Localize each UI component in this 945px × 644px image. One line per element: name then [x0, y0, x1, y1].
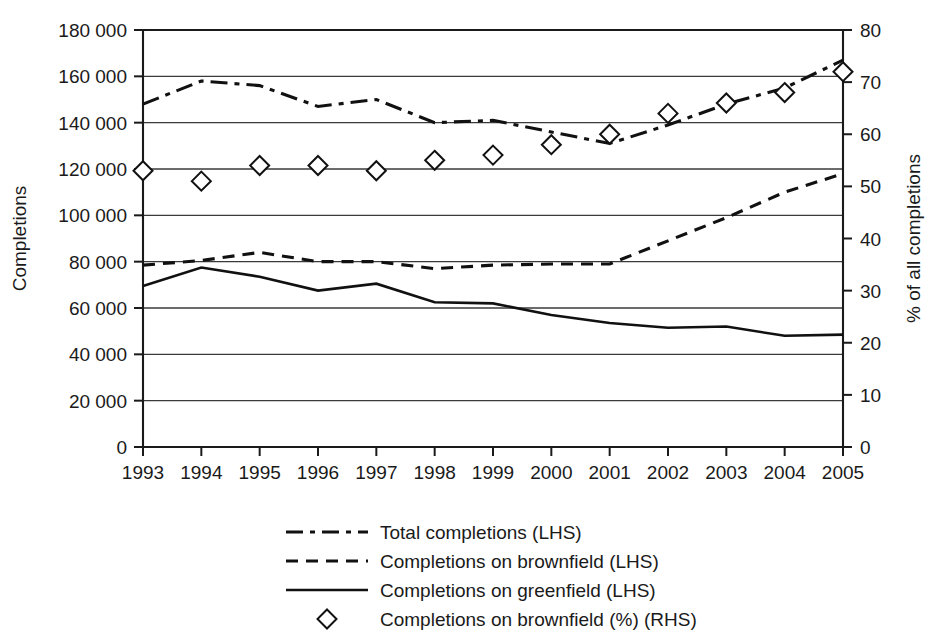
xtick-label-1996: 1996 [297, 462, 339, 483]
ytick-label-left-160000: 160 000 [58, 66, 127, 87]
series-brownfield [143, 174, 843, 269]
chart-legend: Total completions (LHS)Completions on br… [0, 505, 945, 644]
ytick-label-left-80000: 80 000 [69, 252, 127, 273]
ytick-label-right-0: 0 [860, 437, 871, 458]
ytick-label-left-40000: 40 000 [69, 344, 127, 365]
y-axis-title-right: % of all completions [903, 154, 924, 323]
xtick-label-2001: 2001 [589, 462, 631, 483]
xtick-label-1995: 1995 [239, 462, 281, 483]
legend-item-2: Completions on greenfield (LHS) [286, 580, 656, 601]
series-total-completions [143, 60, 843, 143]
ytick-label-left-0: 0 [116, 437, 127, 458]
data-point-marker-1996 [309, 156, 328, 175]
legend-swatch-diamond-icon [318, 610, 337, 629]
ytick-label-right-50: 50 [860, 176, 881, 197]
data-point-marker-2003 [717, 93, 736, 112]
legend-item-1: Completions on brownfield (LHS) [286, 551, 659, 572]
ytick-label-right-20: 20 [860, 333, 881, 354]
data-point-marker-1997 [367, 161, 386, 180]
data-point-marker-2002 [659, 104, 678, 123]
legend-item-0: Total completions (LHS) [286, 522, 582, 543]
ytick-label-left-100000: 100 000 [58, 205, 127, 226]
xtick-label-1999: 1999 [472, 462, 514, 483]
data-point-marker-2005 [834, 62, 853, 81]
data-point-marker-1993 [134, 161, 153, 180]
line-chart-svg: 020 00040 00060 00080 000100 000120 0001… [0, 0, 945, 505]
ytick-label-left-180000: 180 000 [58, 20, 127, 41]
chart-figure: 020 00040 00060 00080 000100 000120 0001… [0, 0, 945, 644]
data-point-marker-1999 [484, 146, 503, 165]
ytick-label-left-140000: 140 000 [58, 113, 127, 134]
xtick-label-1993: 1993 [122, 462, 164, 483]
legend-label-1: Completions on brownfield (LHS) [380, 551, 659, 572]
legend-item-3: Completions on brownfield (%) (RHS) [318, 609, 697, 630]
ytick-label-right-80: 80 [860, 20, 881, 41]
xtick-label-1994: 1994 [180, 462, 223, 483]
ytick-label-left-120000: 120 000 [58, 159, 127, 180]
ytick-label-right-60: 60 [860, 124, 881, 145]
xtick-label-1998: 1998 [414, 462, 456, 483]
ytick-label-left-20000: 20 000 [69, 391, 127, 412]
data-point-marker-1994 [192, 172, 211, 191]
legend-label-2: Completions on greenfield (LHS) [380, 580, 656, 601]
ytick-label-right-10: 10 [860, 385, 881, 406]
data-point-marker-2000 [542, 135, 561, 154]
xtick-label-2004: 2004 [764, 462, 807, 483]
legend-label-0: Total completions (LHS) [380, 522, 582, 543]
xtick-label-2003: 2003 [705, 462, 747, 483]
xtick-label-1997: 1997 [355, 462, 397, 483]
legend-label-3: Completions on brownfield (%) (RHS) [380, 609, 697, 630]
plot-area-container: 020 00040 00060 00080 000100 000120 0001… [0, 0, 945, 505]
y-axis-title-left: Completions [9, 186, 30, 292]
ytick-label-right-30: 30 [860, 281, 881, 302]
data-point-marker-1995 [250, 156, 269, 175]
series-greenfield [143, 267, 843, 335]
ytick-label-left-60000: 60 000 [69, 298, 127, 319]
xtick-label-2005: 2005 [822, 462, 864, 483]
xtick-label-2002: 2002 [647, 462, 689, 483]
ytick-label-right-40: 40 [860, 229, 881, 250]
ytick-label-right-70: 70 [860, 72, 881, 93]
xtick-label-2000: 2000 [530, 462, 572, 483]
data-point-marker-1998 [425, 151, 444, 170]
legend-svg: Total completions (LHS)Completions on br… [0, 505, 945, 644]
